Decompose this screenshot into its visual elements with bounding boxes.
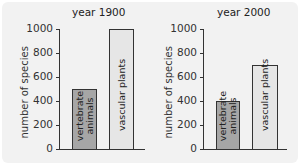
y-tick-label: 200 — [23, 118, 53, 130]
y-tick — [200, 125, 203, 126]
bar-label: vertebrateanimals — [75, 86, 95, 146]
y-tick — [200, 29, 203, 30]
bar-label: vascular plants — [117, 50, 127, 140]
bar-label: vertebrateanimals — [218, 86, 238, 146]
y-tick — [200, 149, 203, 150]
y-tick — [56, 149, 59, 150]
chart-title: year 1900 — [72, 6, 125, 18]
bar-label-line: vertebrate — [75, 86, 85, 146]
y-tick — [56, 29, 59, 30]
y-tick-label: 400 — [167, 94, 197, 106]
y-tick — [200, 77, 203, 78]
bar-label: vascular plants — [260, 50, 270, 140]
y-tick-label: 0 — [23, 142, 53, 154]
y-tick-label: 200 — [167, 118, 197, 130]
y-tick-label: 600 — [167, 70, 197, 82]
y-axis — [203, 29, 204, 149]
y-tick — [200, 53, 203, 54]
y-tick-label: 400 — [23, 94, 53, 106]
y-tick — [56, 53, 59, 54]
y-tick-label: 0 — [167, 142, 197, 154]
y-tick-label: 800 — [167, 46, 197, 58]
y-tick-label: 800 — [23, 46, 53, 58]
y-tick-label: 600 — [23, 70, 53, 82]
y-tick — [56, 101, 59, 102]
chart-title: year 2000 — [217, 6, 270, 18]
y-tick — [200, 101, 203, 102]
y-tick — [56, 125, 59, 126]
y-tick-label: 1000 — [23, 22, 53, 34]
bar-label-line: animals — [228, 86, 238, 146]
y-tick-label: 1000 — [167, 22, 197, 34]
y-axis — [59, 29, 60, 149]
bar-label-line: animals — [85, 86, 95, 146]
y-tick — [56, 77, 59, 78]
